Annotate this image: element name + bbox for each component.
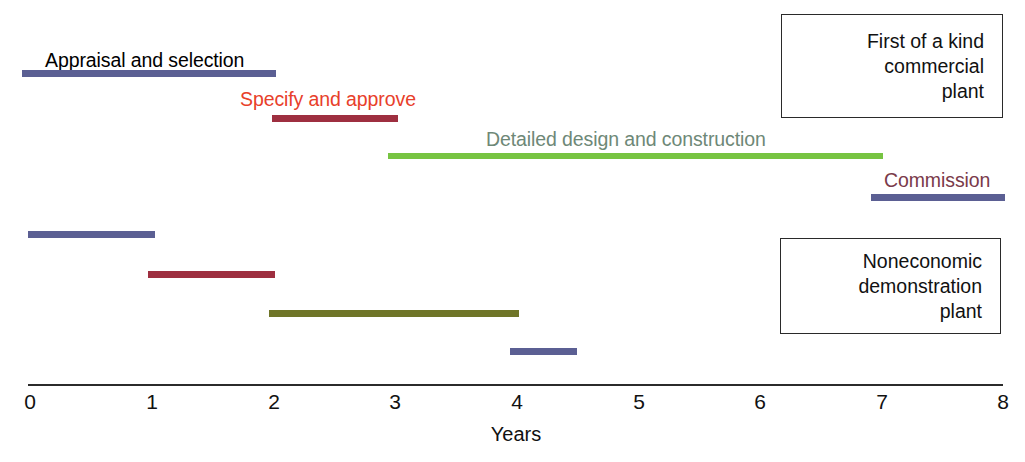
task-bar-specify-and-approve <box>272 115 398 122</box>
x-axis-line <box>28 384 1003 386</box>
phase-box-line-3: plant <box>940 299 982 324</box>
task-label-appraisal-and-selection: Appraisal and selection <box>45 49 244 71</box>
phase-box-noneconomic-demonstration-plant: Noneconomic demonstration plant <box>780 238 1001 334</box>
task-bar-detailed-design-and-construction <box>388 153 883 159</box>
x-axis-tick-0: 0 <box>10 390 50 414</box>
task-label-specify-and-approve: Specify and approve <box>240 88 416 110</box>
phase-box-first-of-a-kind-commercial-plant: First of a kind commercial plant <box>781 14 1003 118</box>
task-label-commission: Commission <box>884 169 990 191</box>
x-axis-tick-4: 4 <box>497 390 537 414</box>
phase-box-line-1: Noneconomic <box>863 249 982 274</box>
x-axis-title: Years <box>416 422 616 446</box>
task-bar-demo-specify-and-approve <box>148 271 275 278</box>
gantt-timeline-figure: Appraisal and selection Specify and appr… <box>0 0 1025 462</box>
task-label-detailed-design-and-construction: Detailed design and construction <box>486 128 766 150</box>
x-axis-tick-8: 8 <box>983 390 1023 414</box>
phase-box-line-1: First of a kind <box>867 29 984 54</box>
task-bar-appraisal-and-selection <box>22 70 276 77</box>
x-axis-tick-2: 2 <box>254 390 294 414</box>
x-axis-tick-3: 3 <box>375 390 415 414</box>
x-axis-tick-5: 5 <box>619 390 659 414</box>
phase-box-line-2: commercial <box>884 54 984 79</box>
x-axis-tick-1: 1 <box>132 390 172 414</box>
phase-box-line-3: plant <box>942 79 984 104</box>
task-bar-commission <box>871 194 1005 201</box>
task-bar-demo-detailed-design-and-construction <box>269 310 519 317</box>
x-axis-tick-7: 7 <box>862 390 902 414</box>
phase-box-line-2: demonstration <box>858 274 982 299</box>
x-axis-tick-6: 6 <box>740 390 780 414</box>
task-bar-demo-commission <box>510 348 577 355</box>
task-bar-demo-appraisal-and-selection <box>28 231 155 238</box>
